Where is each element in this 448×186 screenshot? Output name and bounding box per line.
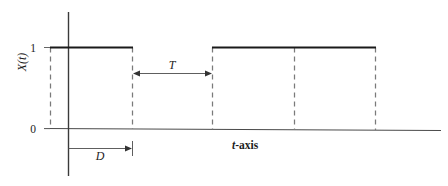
pulse-train-figure: 1 0 X(t) T D t-axis [0,0,448,186]
period-label: T [169,58,177,72]
duration-label: D [95,149,105,163]
figure-canvas: 1 0 X(t) T D t-axis [0,0,448,186]
period-arrow-right-icon [205,71,212,77]
t-axis-label-suffix: -axis [235,139,259,151]
y-tick-label-zero: 0 [30,123,36,135]
t-axis-label: t-axis [232,139,259,151]
y-axis-label: X(t) [15,53,29,73]
y-tick-label-one: 1 [30,42,36,54]
duration-arrow-right-icon [125,146,132,152]
t-axis-line [44,129,441,131]
period-arrow-left-icon [133,71,140,77]
